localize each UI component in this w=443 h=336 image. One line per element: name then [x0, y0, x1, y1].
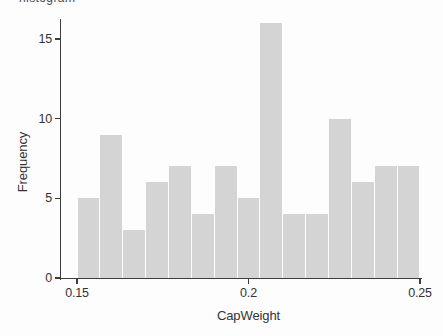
histogram-bar [78, 198, 100, 278]
y-axis-title: Frequency [15, 132, 30, 193]
histogram-bar [169, 166, 191, 278]
histogram-bar [306, 214, 328, 278]
histogram-bar [260, 23, 282, 278]
histogram-bar [352, 182, 374, 278]
histogram-bar [215, 166, 237, 278]
y-axis-tick-label: 15 [26, 32, 52, 46]
histogram-bar [123, 230, 145, 278]
histogram-bar [329, 119, 351, 278]
y-axis-tick-label: 10 [26, 112, 52, 126]
y-axis-tick-label: 5 [26, 191, 52, 205]
y-axis-tick [55, 277, 60, 278]
histogram-bar [375, 166, 397, 278]
histogram-bar [283, 214, 305, 278]
x-axis-tick [248, 279, 249, 284]
histogram-bar [192, 214, 214, 278]
x-axis-tick [76, 279, 77, 284]
y-axis-tick-label: 0 [26, 271, 52, 285]
x-axis-tick-label: 0.15 [55, 286, 99, 300]
histogram-figure: histogram 051015 0.150.20.25 Frequency C… [0, 0, 443, 336]
x-axis-tick-label: 0.2 [227, 286, 271, 300]
histogram-bar [398, 166, 420, 278]
histogram-bar [146, 182, 168, 278]
x-axis-tick-label: 0.25 [398, 286, 442, 300]
histogram-bar [100, 135, 122, 278]
y-axis-tick [55, 118, 60, 119]
x-axis-tick [419, 279, 420, 284]
cropped-caption-text: histogram [19, 0, 75, 5]
y-axis-tick [55, 38, 60, 39]
x-axis-title: CapWeight [188, 308, 309, 323]
histogram-bar [238, 198, 260, 278]
y-axis-tick [55, 198, 60, 199]
y-axis-line [60, 19, 61, 280]
x-axis-line [60, 278, 422, 279]
